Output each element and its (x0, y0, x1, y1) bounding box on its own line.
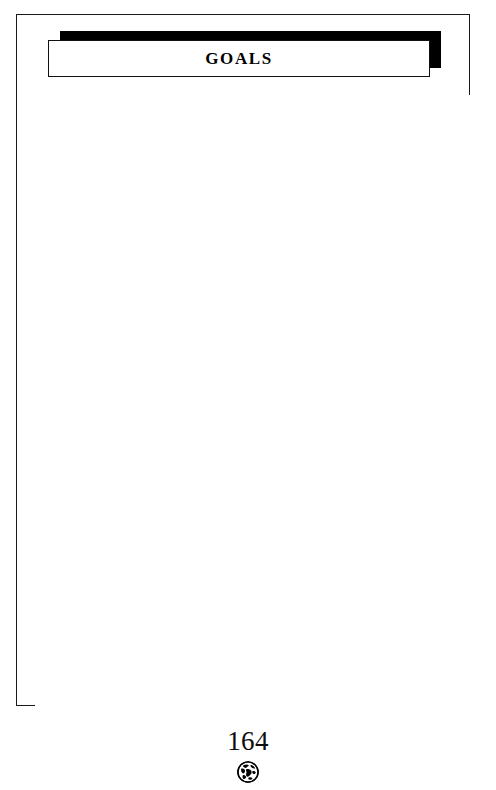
page-footer: 164 (0, 712, 496, 790)
page-title: GOALS (205, 50, 273, 68)
page-border-frame (16, 14, 470, 706)
worksheet-page: GOALS 164 (0, 0, 496, 790)
globe-icon (237, 761, 259, 783)
section-header-banner: GOALS (48, 31, 441, 77)
page-number: 164 (227, 728, 268, 755)
worksheet-writing-area (35, 95, 485, 719)
header-title-plate: GOALS (48, 40, 430, 77)
